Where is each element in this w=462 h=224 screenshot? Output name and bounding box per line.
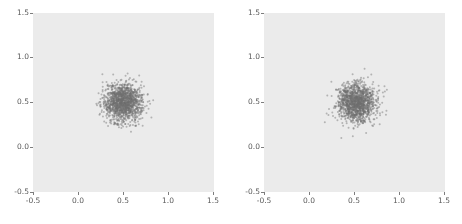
right-ytick-mark-0_0 [261, 147, 264, 148]
left-ytick-mark-1_0 [30, 57, 33, 58]
right-ytick-label-neg0_5: -0.5 [234, 188, 260, 196]
right-xtick-mark-0_5 [354, 192, 355, 195]
right-ytick-label-0_5: 0.5 [234, 98, 260, 106]
left-xtick-label-1_5: 1.5 [200, 197, 226, 205]
left-xtick-label-1_0: 1.0 [155, 197, 181, 205]
left-xtick-mark-0_5 [123, 192, 124, 195]
right-xtick-label-neg0_5: -0.5 [251, 197, 277, 205]
right-xtick-label-0_5: 0.5 [341, 197, 367, 205]
right-ytick-label-1_0: 1.0 [234, 53, 260, 61]
left-scatter-points [33, 13, 214, 192]
right-ytick-label-0_0: 0.0 [234, 143, 260, 151]
right-ytick-mark-1_5 [261, 13, 264, 14]
left-xtick-label-neg0_5: -0.5 [20, 197, 46, 205]
left-ytick-label-0_0: 0.0 [3, 143, 29, 151]
left-ytick-mark-0_0 [30, 147, 33, 148]
left-ytick-label-1_5: 1.5 [3, 9, 29, 17]
right-scatter-plot: 1.5 1.0 0.5 0.0 -0.5 -0.5 0.0 0.5 1.0 1.… [231, 0, 462, 224]
left-ytick-label-neg0_5: -0.5 [3, 188, 29, 196]
right-xtick-label-1_5: 1.5 [431, 197, 457, 205]
left-ytick-label-0_5: 0.5 [3, 98, 29, 106]
right-xtick-mark-0_0 [309, 192, 310, 195]
left-ytick-mark-0_5 [30, 102, 33, 103]
right-ytick-label-1_5: 1.5 [234, 9, 260, 17]
left-xtick-label-0_0: 0.0 [65, 197, 91, 205]
right-scatter-points [264, 13, 445, 192]
left-xtick-mark-0_0 [78, 192, 79, 195]
scatter-figure: 1.5 1.0 0.5 0.0 -0.5 -0.5 0.0 0.5 1.0 1.… [0, 0, 462, 224]
right-xtick-label-0_0: 0.0 [296, 197, 322, 205]
right-ytick-mark-1_0 [261, 57, 264, 58]
right-xtick-mark-1_0 [399, 192, 400, 195]
right-xtick-label-1_0: 1.0 [386, 197, 412, 205]
left-scatter-plot: 1.5 1.0 0.5 0.0 -0.5 -0.5 0.0 0.5 1.0 1.… [0, 0, 231, 224]
right-xtick-mark-neg0_5 [264, 192, 265, 195]
right-ytick-mark-0_5 [261, 102, 264, 103]
right-xtick-mark-1_5 [444, 192, 445, 195]
left-ytick-label-1_0: 1.0 [3, 53, 29, 61]
left-xtick-label-0_5: 0.5 [110, 197, 136, 205]
left-xtick-mark-1_0 [168, 192, 169, 195]
left-ytick-mark-1_5 [30, 13, 33, 14]
left-xtick-mark-neg0_5 [33, 192, 34, 195]
left-xtick-mark-1_5 [213, 192, 214, 195]
